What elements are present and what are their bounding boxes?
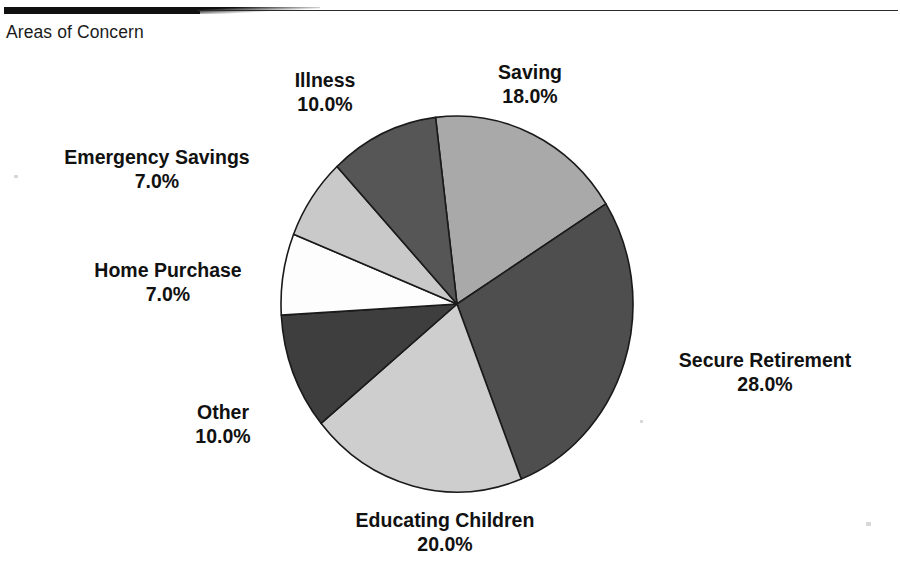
slice-label-secure-retirement: Secure Retirement 28.0% bbox=[640, 348, 890, 396]
slice-label-saving-value: 18.0% bbox=[450, 84, 610, 108]
slice-label-illness: Illness 10.0% bbox=[250, 68, 400, 116]
scan-speckle bbox=[866, 522, 871, 526]
slice-label-secure-retirement-name: Secure Retirement bbox=[640, 348, 890, 372]
pie-slice-group bbox=[281, 116, 633, 492]
slice-label-secure-retirement-value: 28.0% bbox=[640, 372, 890, 396]
slice-label-emergency-savings-name: Emergency Savings bbox=[22, 145, 292, 169]
slice-label-other-name: Other bbox=[148, 400, 298, 424]
slice-label-other-value: 10.0% bbox=[148, 424, 298, 448]
slice-label-emergency-savings-value: 7.0% bbox=[22, 169, 292, 193]
slice-label-saving: Saving 18.0% bbox=[450, 60, 610, 108]
slice-label-emergency-savings: Emergency Savings 7.0% bbox=[22, 145, 292, 193]
scan-speckle bbox=[640, 420, 643, 423]
slice-label-educating-children: Educating Children 20.0% bbox=[285, 508, 605, 556]
slice-label-home-purchase: Home Purchase 7.0% bbox=[44, 258, 292, 306]
slice-label-other: Other 10.0% bbox=[148, 400, 298, 448]
slice-label-illness-value: 10.0% bbox=[250, 92, 400, 116]
scan-speckle bbox=[14, 175, 18, 178]
slice-label-educating-children-name: Educating Children bbox=[285, 508, 605, 532]
chart-page: Areas of Concern Illness 10.0% Saving 18… bbox=[0, 0, 900, 584]
slice-label-home-purchase-name: Home Purchase bbox=[44, 258, 292, 282]
slice-label-educating-children-value: 20.0% bbox=[285, 532, 605, 556]
slice-label-home-purchase-value: 7.0% bbox=[44, 282, 292, 306]
slice-label-saving-name: Saving bbox=[450, 60, 610, 84]
slice-label-illness-name: Illness bbox=[250, 68, 400, 92]
pie-chart: Illness 10.0% Saving 18.0% Emergency Sav… bbox=[0, 0, 900, 584]
